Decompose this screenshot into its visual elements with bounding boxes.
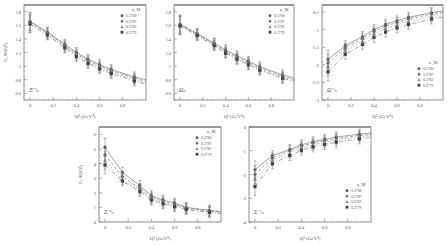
legend-title: κ_M: [429, 60, 438, 65]
x-tick-label: 0.4: [149, 225, 155, 230]
data-point: [103, 163, 106, 166]
legend: κ_M0.37600.37870.37620.3779: [345, 182, 365, 210]
data-point: [185, 208, 188, 211]
data-point: [326, 70, 329, 73]
x-axis-label: Q² (GeV²): [150, 236, 171, 241]
data-point: [271, 162, 274, 165]
data-point: [395, 26, 398, 29]
y-tick-label: 0.6: [165, 91, 171, 96]
legend-title: κ_M: [132, 7, 141, 12]
legend-entry: 0.3760: [126, 14, 137, 18]
data-point: [372, 36, 375, 39]
y-tick-label: 0: [244, 125, 247, 130]
data-point: [110, 72, 113, 75]
x-tick-label: 0.4: [299, 225, 305, 230]
legend-entry: 0.3779: [274, 31, 285, 35]
legend-entry: 0.3787: [274, 20, 285, 24]
y-tick-label: 0: [94, 220, 97, 225]
data-point: [98, 67, 101, 70]
legend-entry: 0.3779: [126, 31, 137, 35]
panel-label: Σ⁺ₙ: [103, 209, 114, 215]
x-tick-label: 0.6: [97, 103, 103, 108]
legend-entry: 0.3762: [201, 147, 212, 151]
data-point: [133, 79, 136, 82]
y-tick-label: -1: [242, 149, 246, 154]
y-tick-label: 2: [94, 191, 96, 196]
y-tick-label: -1.5: [312, 45, 320, 50]
y-tick-label: 1: [94, 205, 96, 210]
plot-panel-1: 0.60.811.21.41.61.800.20.40.60.8Q² (GeV²…: [0, 0, 150, 122]
data-point: [288, 154, 291, 157]
legend-title: κ_M: [357, 182, 366, 187]
data-point: [196, 34, 199, 37]
y-tick-label: 1.4: [15, 37, 21, 42]
data-point: [253, 185, 256, 188]
data-point: [323, 143, 326, 146]
y-tick-label: 1.2: [165, 51, 171, 56]
panel-label: Ωₙ: [179, 87, 186, 93]
y-tick-label: 1.2: [15, 51, 21, 56]
data-point: [361, 43, 364, 46]
data-point: [344, 53, 347, 56]
x-tick-label: 0.8: [120, 103, 126, 108]
data-point: [258, 69, 261, 72]
y-tick-label: -3: [315, 98, 319, 103]
data-point: [335, 141, 338, 144]
y-tick-label: 5: [94, 147, 97, 152]
x-axis-label: Q² (GeV²): [75, 114, 96, 119]
legend: κ_M0.37600.37870.37620.3779: [120, 7, 140, 35]
data-point: [300, 149, 303, 152]
y-tick-label: -4: [242, 220, 246, 225]
data-point: [247, 63, 250, 66]
data-point: [208, 211, 211, 214]
x-tick-label: 0.2: [50, 103, 56, 108]
y-tick-label: 1.8: [165, 10, 171, 15]
y-tick-label: -0.5: [312, 10, 320, 15]
plot-panel-3: -3-2.5-2-1.5-1-0.500.20.40.60.8Q² (GeV²)…: [298, 0, 447, 122]
data-point: [235, 58, 238, 61]
y-axis-label: G_M(Q²): [3, 43, 8, 62]
x-tick-label: 0.8: [345, 225, 351, 230]
data-point: [121, 179, 124, 182]
data-point: [384, 30, 387, 33]
y-tick-label: 1.8: [15, 10, 21, 15]
y-tick-label: 1.6: [15, 23, 21, 28]
plot-panel-5: -4-3-2-1000.20.40.60.8Q² (GeV²)Σ⁻ₙκ_M0.3…: [225, 122, 375, 244]
chart-svg: 012345600.20.40.60.8Q² (GeV²)G_M(Q²)Σ⁺ₙκ…: [75, 122, 225, 244]
x-tick-label: 0.4: [371, 103, 377, 108]
y-tick-label: -1: [315, 28, 319, 33]
legend-entry: 0.3779: [423, 84, 434, 88]
legend-entry: 0.3760: [351, 189, 362, 193]
plot-panel-2: 0.60.811.21.41.61.800.20.40.60.8Q² (GeV²…: [150, 0, 298, 122]
data-point: [150, 198, 153, 201]
data-point: [138, 190, 141, 193]
x-tick-label: 0.2: [200, 103, 206, 108]
y-tick-label: 0.8: [15, 78, 21, 83]
y-tick-label: 0.6: [15, 91, 21, 96]
x-axis-label: Q² (GeV²): [372, 114, 393, 119]
x-tick-label: 0.4: [74, 103, 80, 108]
x-tick-label: 0.6: [322, 225, 328, 230]
data-point: [46, 33, 49, 36]
x-axis-label: Q² (GeV²): [300, 236, 321, 241]
data-point: [63, 46, 66, 49]
legend: κ_M0.37600.37870.37620.3779: [268, 7, 288, 35]
legend: κ_M0.37600.37870.37620.3779: [417, 60, 437, 88]
y-tick-label: 1: [19, 64, 21, 69]
legend-entry: 0.3760: [201, 136, 212, 140]
legend-entry: 0.3760: [274, 14, 285, 18]
legend-entry: 0.3779: [351, 206, 362, 210]
x-tick-label: 0.6: [394, 103, 400, 108]
x-tick-label: 0: [327, 103, 330, 108]
y-tick-label: 3: [94, 176, 97, 181]
x-tick-label: 0.8: [195, 225, 201, 230]
x-tick-label: 0.2: [125, 225, 131, 230]
chart-svg: 0.60.811.21.41.61.800.20.40.60.8Q² (GeV²…: [0, 0, 150, 122]
legend-entry: 0.3787: [201, 142, 212, 146]
panel-label: Ξ⁻ₙ: [29, 87, 39, 93]
y-tick-label: 4: [94, 162, 97, 167]
data-point: [178, 24, 181, 27]
panel-label: Ω⁻ₙ: [327, 87, 337, 93]
legend-entry: 0.3762: [126, 25, 137, 29]
legend: κ_M0.37600.37870.37620.3779: [195, 129, 215, 157]
